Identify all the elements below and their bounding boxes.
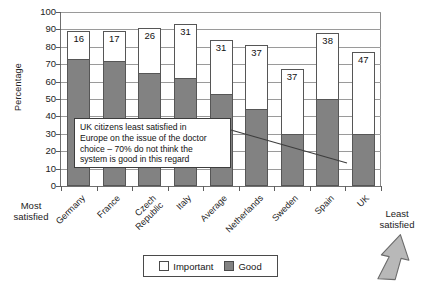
callout-annotation-box: UK citizens least satisfied in Europe on… xyxy=(74,118,231,168)
x-axis-tick-mark xyxy=(239,186,240,191)
y-axis-tick-mark xyxy=(56,116,61,117)
bar-value-label: 31 xyxy=(174,27,197,37)
y-axis-tick-label: 60 xyxy=(30,77,56,87)
legend-entry-important: Important xyxy=(159,261,213,272)
callout-annotation-text: UK citizens least satisfied in Europe on… xyxy=(80,122,226,165)
x-axis-tick-mark xyxy=(168,186,169,191)
bar-value-label: 38 xyxy=(316,36,339,46)
x-axis-tick-mark xyxy=(274,186,275,191)
axis-end-label-least-satisfied: Least satisfied xyxy=(372,208,422,230)
bar-chart: Percentage 0102030405060708090100 161726… xyxy=(0,0,422,288)
y-axis-tick-mark xyxy=(56,29,61,30)
up-arrow-highlight-icon xyxy=(376,231,414,284)
bar-value-label: 31 xyxy=(210,43,233,53)
bar-value-label: 47 xyxy=(352,55,375,65)
legend-entry-good: Good xyxy=(224,261,261,272)
legend-swatch-important-icon xyxy=(159,261,169,271)
bar-value-label: 26 xyxy=(138,31,161,41)
bar-group[interactable]: 37 xyxy=(281,12,304,186)
bar-good[interactable] xyxy=(245,109,268,186)
x-axis-tick-mark xyxy=(310,186,311,191)
y-axis-tick-label: 90 xyxy=(30,24,56,34)
y-axis-tick-mark xyxy=(56,64,61,65)
bar-good[interactable] xyxy=(352,134,375,186)
bar-group[interactable]: 38 xyxy=(316,12,339,186)
y-axis-tick-mark xyxy=(56,47,61,48)
bar-value-label: 16 xyxy=(67,34,90,44)
x-axis-tick-mark xyxy=(132,186,133,191)
y-axis-tick-mark xyxy=(56,134,61,135)
y-axis-tick-mark xyxy=(56,151,61,152)
legend-label-important: Important xyxy=(173,261,213,272)
y-axis-tick-label: 80 xyxy=(30,42,56,52)
y-axis-tick-label: 70 xyxy=(30,59,56,69)
x-axis-tick-mark xyxy=(61,186,62,191)
legend-label-good: Good xyxy=(238,261,261,272)
x-axis-tick-mark xyxy=(97,186,98,191)
x-axis-tick-mark xyxy=(203,186,204,191)
y-axis-title: Percentage xyxy=(13,47,23,127)
bar-value-label: 37 xyxy=(281,72,304,82)
bar-value-label: 37 xyxy=(245,48,268,58)
bar-good[interactable] xyxy=(281,134,304,186)
bar-value-label: 17 xyxy=(103,34,126,44)
legend-swatch-good-icon xyxy=(224,261,234,271)
bar-good[interactable] xyxy=(316,99,339,186)
y-axis-tick-label: 20 xyxy=(30,146,56,156)
y-axis-tick-label: 50 xyxy=(30,94,56,104)
y-axis-tick-mark xyxy=(56,82,61,83)
x-axis-tick-mark xyxy=(345,186,346,191)
legend: Important Good xyxy=(143,255,278,277)
y-axis-tick-labels: 0102030405060708090100 xyxy=(30,0,56,288)
axis-end-label-most-satisfied: Most satisfied xyxy=(2,200,60,222)
x-axis-tick-mark xyxy=(381,186,382,191)
bar-group[interactable]: 47 xyxy=(352,12,375,186)
bar-group[interactable]: 37 xyxy=(245,12,268,186)
y-axis-tick-mark xyxy=(56,169,61,170)
y-axis-tick-label: 40 xyxy=(30,111,56,121)
y-axis-tick-label: 10 xyxy=(30,164,56,174)
y-axis-tick-mark xyxy=(56,12,61,13)
y-axis-tick-label: 0 xyxy=(30,181,56,191)
y-axis-tick-label: 100 xyxy=(30,7,56,17)
y-axis-tick-mark xyxy=(56,99,61,100)
y-axis-tick-label: 30 xyxy=(30,129,56,139)
